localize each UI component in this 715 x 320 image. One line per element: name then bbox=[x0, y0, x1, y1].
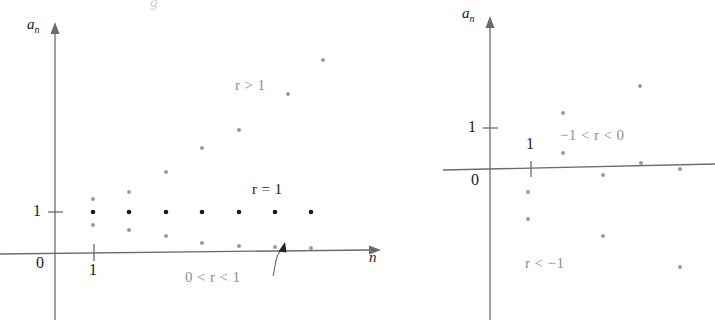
left-origin-label: 0 bbox=[36, 255, 44, 271]
right-y-tick-1-label: 1 bbox=[468, 119, 476, 135]
point-r-gt-1 bbox=[91, 197, 95, 201]
r-between-0-and-1-label: 0 < r < 1 bbox=[185, 270, 241, 285]
point-r-between-0-1 bbox=[127, 228, 131, 232]
point-r-eq-1 bbox=[127, 210, 132, 215]
point-r-between-0-1 bbox=[200, 241, 204, 245]
left-x-tick-1-label: 1 bbox=[89, 262, 97, 278]
point-r-between-0-1 bbox=[309, 246, 313, 250]
right-y-axis-arrowhead bbox=[486, 16, 495, 28]
left-y-axis-arrowhead bbox=[51, 22, 60, 34]
point-r-gt-1 bbox=[164, 170, 168, 174]
r-less-than-neg1-label: r < −1 bbox=[525, 256, 564, 271]
right-origin-label: 0 bbox=[471, 172, 479, 188]
point-r-between-neg1-0 bbox=[601, 173, 605, 177]
point-r-eq-1 bbox=[91, 210, 96, 215]
point-r-gt-1 bbox=[321, 58, 325, 62]
point-r-less-than-neg1 bbox=[526, 217, 530, 221]
negative-ratio-panel: an 0 1 1 −1 < r < 0 r < −1 bbox=[400, 0, 715, 320]
point-r-between-neg1-0 bbox=[639, 161, 643, 165]
point-r-gt-1 bbox=[237, 128, 241, 132]
point-r-gt-1 bbox=[200, 146, 204, 150]
point-r-eq-1 bbox=[200, 210, 205, 215]
point-r-gt-1 bbox=[286, 92, 290, 96]
point-r-less-than-neg1 bbox=[678, 265, 682, 269]
point-r-gt-1 bbox=[127, 190, 131, 194]
callout-curve bbox=[273, 249, 282, 276]
positive-ratio-panel: an n 0 1 1 r > 1 r = 1 0 < r < 1 bbox=[0, 0, 400, 320]
left-y-axis-label: an bbox=[27, 17, 40, 35]
point-r-between-0-1 bbox=[164, 234, 168, 238]
point-r-eq-1 bbox=[309, 210, 314, 215]
r-greater-than-1-label: r > 1 bbox=[235, 78, 265, 93]
right-panel-canvas bbox=[400, 0, 715, 320]
point-r-between-neg1-0 bbox=[678, 167, 682, 171]
right-x-axis bbox=[443, 164, 715, 170]
right-y-axis-label: an bbox=[462, 6, 475, 24]
point-r-eq-1 bbox=[273, 210, 278, 215]
point-r-between-neg1-0 bbox=[526, 190, 530, 194]
left-y-tick-1-label: 1 bbox=[33, 203, 41, 219]
left-x-axis-label: n bbox=[369, 250, 377, 265]
point-r-less-than-neg1 bbox=[601, 234, 605, 238]
right-x-tick-1-label: 1 bbox=[526, 136, 534, 152]
point-r-eq-1 bbox=[237, 210, 242, 215]
point-r-between-0-1 bbox=[237, 244, 241, 248]
r-equals-1-label: r = 1 bbox=[252, 182, 282, 197]
point-r-eq-1 bbox=[164, 210, 169, 215]
point-r-between-0-1 bbox=[273, 245, 277, 249]
point-r-between-neg1-0 bbox=[561, 151, 565, 155]
point-r-between-0-1 bbox=[91, 223, 95, 227]
point-r-less-than-neg1 bbox=[561, 111, 565, 115]
figure-root: g bbox=[0, 0, 715, 320]
point-r-less-than-neg1 bbox=[638, 84, 642, 88]
r-between-neg1-and-0-label: −1 < r < 0 bbox=[560, 128, 624, 143]
callout-arrowhead bbox=[279, 242, 287, 253]
